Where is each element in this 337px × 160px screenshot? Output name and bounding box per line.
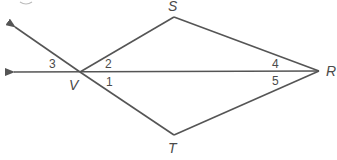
label-point-T: T xyxy=(168,142,177,155)
segment-SR xyxy=(174,17,319,71)
ray-TV-upper-left xyxy=(15,27,80,72)
label-point-R: R xyxy=(326,65,336,78)
label-angle-2: 2 xyxy=(105,58,112,71)
label-angle-4: 4 xyxy=(272,58,279,71)
label-point-V: V xyxy=(69,79,78,92)
cropped-glyph xyxy=(20,2,32,4)
segment-RT xyxy=(174,71,319,135)
label-angle-5: 5 xyxy=(272,75,279,88)
geometry-figure: S R V T 3 2 1 4 5 xyxy=(0,0,337,160)
ray-RV-left xyxy=(14,71,319,72)
segment-TV xyxy=(80,72,174,135)
label-point-S: S xyxy=(168,0,177,13)
figure-lines xyxy=(0,0,337,160)
label-angle-1: 1 xyxy=(106,76,113,89)
label-angle-3: 3 xyxy=(49,58,56,71)
segment-VS xyxy=(80,17,174,72)
